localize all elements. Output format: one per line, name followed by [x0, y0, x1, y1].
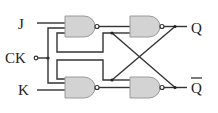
nand-1-bubble — [95, 25, 99, 29]
nand-gate-4 — [130, 77, 160, 98]
g4-input-junction-dot — [110, 78, 113, 81]
g2-input-junction-dot — [110, 31, 113, 34]
ck-input-bubble — [34, 56, 38, 60]
label-k: K — [18, 82, 29, 98]
svg-text:Q: Q — [191, 80, 202, 96]
nand-gate-1 — [65, 16, 95, 37]
q-bar-junction-dot — [173, 86, 176, 89]
label-j: J — [18, 16, 24, 32]
label-ck: CK — [5, 50, 26, 66]
q-junction-dot — [173, 25, 176, 28]
label-q-bar: Q — [191, 78, 202, 96]
nand-3-bubble — [95, 86, 99, 90]
nand-gate-2 — [130, 16, 160, 37]
nand-2-bubble — [160, 25, 164, 29]
nand-gate-3 — [65, 77, 95, 98]
nand-4-bubble — [160, 86, 164, 90]
label-q: Q — [191, 20, 202, 36]
jk-flip-flop-diagram: J CK K Q Q — [0, 0, 218, 113]
